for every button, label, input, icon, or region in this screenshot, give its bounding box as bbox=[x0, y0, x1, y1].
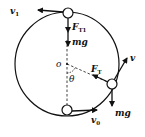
center-point bbox=[66, 63, 68, 65]
bottom-ball bbox=[62, 105, 72, 115]
center-label: o bbox=[56, 59, 62, 69]
side-tension-label: FT bbox=[90, 64, 102, 75]
top-ball bbox=[63, 8, 73, 18]
top-velocity-arrow bbox=[38, 10, 63, 12]
side-velocity-label: v bbox=[130, 53, 136, 63]
side-velocity-arrow bbox=[114, 58, 127, 80]
side-ball bbox=[107, 79, 117, 89]
circular-motion-diagram: o θ v1 FT1 mg v FT mg v0 bbox=[0, 0, 145, 137]
bottom-velocity-label: v0 bbox=[91, 115, 100, 126]
bottom-velocity-arrow bbox=[72, 110, 97, 111]
top-tension-label: FT1 bbox=[71, 22, 86, 33]
side-gravity-label: mg bbox=[115, 108, 131, 118]
top-gravity-label: mg bbox=[72, 37, 88, 47]
top-velocity-label: v1 bbox=[10, 6, 19, 17]
angle-label: θ bbox=[69, 74, 75, 84]
side-tension-arrow bbox=[93, 75, 108, 82]
theta-angle-arc bbox=[67, 68, 75, 73]
